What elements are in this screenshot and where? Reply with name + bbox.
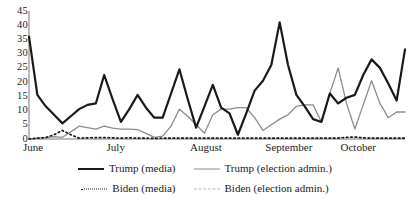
x-tick-october: October [341, 141, 376, 154]
legend-row-2: Biden (media) Biden (election admin.) [0, 182, 410, 195]
legend-line-icon-biden-election-admin [194, 184, 220, 194]
series-line-trump-election-admin [29, 68, 405, 139]
legend-line-icon-biden-media [81, 184, 107, 194]
x-tick-august: August [190, 141, 222, 154]
legend-item-biden-media[interactable]: Biden (media) [81, 182, 175, 195]
chart-container: 45 40 35 30 25 20 15 10 5 0 June July Au… [0, 0, 410, 204]
y-tick-15: 15 [6, 91, 28, 101]
legend-label-biden-media: Biden (media) [112, 182, 175, 195]
axis-lines [29, 11, 405, 139]
chart-svg [0, 0, 410, 160]
y-tick-10: 10 [6, 105, 28, 115]
x-tick-september: September [265, 141, 312, 154]
y-tick-30: 30 [6, 48, 28, 58]
series-layer [29, 22, 405, 139]
y-tick-25: 25 [6, 62, 28, 72]
chart-legend: Trump (media) Trump (election admin.) Bi… [0, 162, 410, 204]
y-tick-45: 45 [6, 6, 28, 16]
y-tick-40: 40 [6, 20, 28, 30]
x-tick-june: June [23, 141, 43, 154]
legend-item-trump-media[interactable]: Trump (media) [78, 162, 176, 175]
y-tick-5: 5 [6, 119, 28, 129]
legend-line-icon-trump-media [78, 164, 104, 174]
series-line-trump-media [29, 22, 405, 134]
legend-item-trump-election-admin[interactable]: Trump (election admin.) [194, 162, 332, 175]
legend-line-icon-trump-election-admin [194, 164, 220, 174]
plot-area: 45 40 35 30 25 20 15 10 5 0 [0, 0, 410, 160]
legend-row-1: Trump (media) Trump (election admin.) [0, 162, 410, 175]
y-axis-tick-labels: 45 40 35 30 25 20 15 10 5 0 [4, 0, 28, 160]
legend-item-biden-election-admin[interactable]: Biden (election admin.) [194, 182, 329, 195]
x-tick-july: July [107, 141, 125, 154]
legend-label-biden-election-admin: Biden (election admin.) [225, 182, 329, 195]
legend-label-trump-election-admin: Trump (election admin.) [225, 162, 332, 175]
y-tick-20: 20 [6, 77, 28, 87]
x-axis-tick-labels: June July August September October [0, 141, 410, 159]
legend-label-trump-media: Trump (media) [109, 162, 176, 175]
y-tick-35: 35 [6, 34, 28, 44]
